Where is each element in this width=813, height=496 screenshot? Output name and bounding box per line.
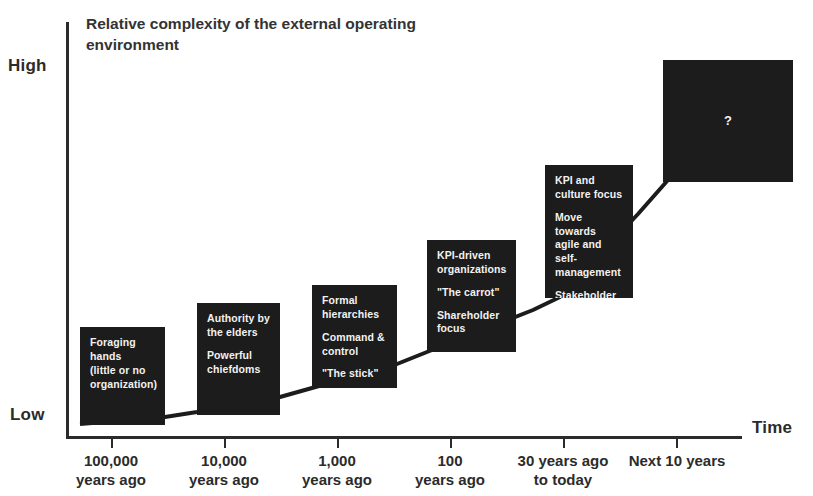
stage-line: KPI and culture focus [555,174,624,202]
y-axis-line [66,22,69,438]
x-tick-label: 30 years ago to today [498,451,628,489]
stage-line: Stakeholder perspective [555,289,624,298]
x-tick-label: 10,000 years ago [164,451,284,489]
stage-line: Powerful chiefdoms [207,349,271,377]
x-axis-tick [450,439,452,448]
stage-authority-elders: Authority by the elders Powerful chiefdo… [197,303,280,415]
stage-line: Foraging hands (little or no organizatio… [90,336,156,391]
chart-title: Relative complexity of the external oper… [86,14,416,56]
x-axis-tick [337,439,339,448]
y-axis-label-low: Low [10,405,45,425]
x-axis-line [66,436,742,439]
x-tick-label: Next 10 years [612,451,742,470]
x-tick-label: 100,000 years ago [51,451,171,489]
stage-line: Command & control [322,331,388,359]
stage-kpi-culture: KPI and culture focus Move towards agile… [545,165,633,298]
stage-line: "The stick" [322,367,388,381]
stage-line: Formal hierarchies [322,294,388,322]
stage-future-unknown: ? [663,60,793,182]
complexity-evolution-chart: High Low Time Relative complexity of the… [0,0,813,496]
x-axis-tick [563,439,565,448]
x-axis-tick [224,439,226,448]
x-tick-label: 100 years ago [390,451,510,489]
stage-line: Shareholder focus [437,309,507,337]
stage-foraging-hands: Foraging hands (little or no organizatio… [80,327,165,425]
stage-line: ? [724,112,732,129]
x-axis-label-time: Time [752,418,792,438]
x-tick-label: 1,000 years ago [277,451,397,489]
stage-kpi-driven: KPI-driven organizations "The carrot" Sh… [427,240,516,352]
y-axis-label-high: High [8,56,47,76]
stage-line: KPI-driven organizations [437,249,507,277]
stage-line: "The carrot" [437,286,507,300]
stage-formal-hierarchies: Formal hierarchies Command & control "Th… [312,285,397,388]
stage-line: Move towards agile and self- management [555,211,624,280]
x-axis-tick [111,439,113,448]
stage-line: Authority by the elders [207,312,271,340]
x-axis-tick [676,439,678,448]
